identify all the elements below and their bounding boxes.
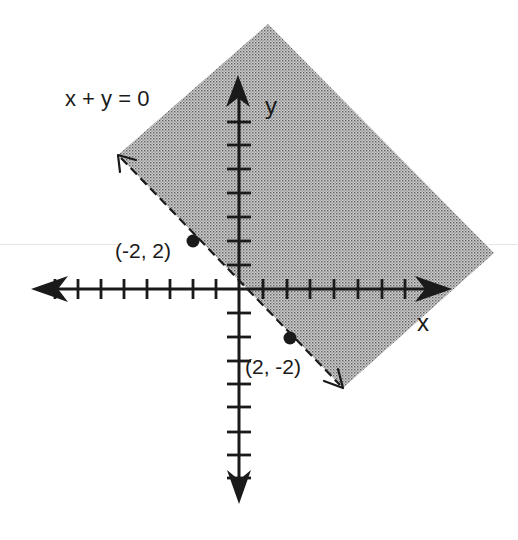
y-axis-label: y [265, 92, 277, 119]
point-label-2-neg2: (2, -2) [245, 355, 301, 378]
point-neg2-2 [187, 235, 200, 248]
shaded-solution-region [118, 24, 494, 388]
x-axis-label: x [417, 309, 429, 336]
point-2-neg2 [284, 332, 297, 345]
equation-label: x + y = 0 [65, 86, 149, 111]
coordinate-plane: x + y = 0 y x (-2, 2) (2, -2) [0, 0, 518, 540]
point-label-neg2-2: (-2, 2) [115, 239, 171, 262]
